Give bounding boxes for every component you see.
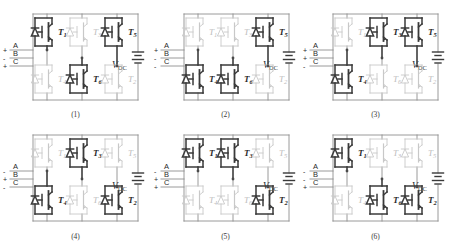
- circuit-panel-3: VDC+A+B-CT1T3T5T4T6T2(3): [300, 0, 451, 121]
- circuit-caption: (3): [300, 110, 451, 119]
- device-subscript: 1: [214, 31, 217, 38]
- device-subscript: 3: [397, 152, 402, 159]
- igbt-symbol: [366, 65, 387, 93]
- diode-triangle: [401, 28, 408, 36]
- igbt-symbol: [366, 139, 387, 167]
- diode-triangle: [101, 196, 108, 204]
- ac-node-junction: [232, 57, 235, 60]
- ac-node-junction: [46, 49, 49, 52]
- igbt-symbol: [66, 186, 87, 214]
- device-subscript: 1: [63, 152, 66, 159]
- device-label-T3: T3: [93, 148, 103, 159]
- igbt-symbol: [101, 18, 122, 46]
- diode-triangle: [182, 75, 189, 83]
- device-subscript: 5: [433, 152, 437, 159]
- phase-terminal-C: C: [313, 178, 319, 187]
- device-label-T1: T1: [209, 27, 217, 38]
- phase-polarity-C: -: [3, 184, 6, 191]
- ac-node-junction: [232, 178, 235, 181]
- device-label-T3: T3: [393, 148, 402, 159]
- diode-triangle: [366, 75, 373, 83]
- device-subscript: 5: [133, 152, 137, 159]
- igbt-symbol: [31, 186, 52, 214]
- phase-polarity-C: +: [303, 184, 307, 191]
- diode-triangle: [217, 75, 224, 83]
- phase-polarity-B: -: [303, 176, 306, 183]
- device-label-T2: T2: [279, 195, 289, 206]
- igbt-symbol: [182, 65, 203, 93]
- igbt-symbol: [182, 186, 203, 214]
- ac-node-junction: [116, 186, 119, 189]
- ac-node-junction: [81, 178, 84, 181]
- diode-triangle: [331, 75, 338, 83]
- phase-terminal-C: C: [13, 178, 19, 187]
- device-label-T5: T5: [128, 148, 137, 159]
- igbt-symbol: [366, 18, 387, 46]
- device-label-T4: T4: [358, 74, 368, 85]
- device-subscript: 1: [64, 31, 67, 38]
- diode-triangle: [331, 28, 338, 36]
- igbt-symbol: [217, 65, 238, 93]
- circuit-panel-1: VDC+A-B+CT1T3T5T4T6T2(1): [0, 0, 151, 121]
- ac-node-junction: [197, 49, 200, 52]
- phase-polarity-C: +: [154, 184, 158, 191]
- igbt-symbol: [331, 139, 352, 167]
- igbt-symbol: [31, 139, 52, 167]
- device-label-T2: T2: [128, 74, 137, 85]
- circuit-schematic: VDC+A+B-CT1T3T5T4T6T2: [300, 0, 451, 121]
- diode-triangle: [401, 149, 408, 157]
- igbt-symbol: [182, 139, 203, 167]
- circuit-panel-5: VDC-A+B+CT1T3T5T4T6T2(5): [151, 121, 300, 243]
- device-subscript: 5: [434, 31, 438, 38]
- dc-source-label: VDC: [112, 60, 127, 71]
- phase-polarity-A: -: [154, 168, 157, 175]
- circuit-schematic: VDC-A+B-CT1T3T5T4T6T2: [0, 121, 151, 242]
- igbt-symbol: [182, 18, 203, 46]
- diode-triangle: [217, 196, 224, 204]
- ac-node-junction: [416, 65, 419, 68]
- device-subscript: 2: [433, 199, 438, 206]
- phase-terminal-C: C: [164, 178, 170, 187]
- device-label-T2: T2: [428, 74, 437, 85]
- diode-triangle: [366, 196, 373, 204]
- ac-node-junction: [267, 65, 270, 68]
- ac-node-junction: [381, 57, 384, 60]
- device-subscript: 2: [284, 78, 288, 85]
- igbt-symbol: [66, 18, 87, 46]
- diode-triangle: [66, 28, 73, 36]
- device-label-T3: T3: [244, 148, 254, 159]
- diode-triangle: [217, 149, 224, 157]
- diode-triangle: [252, 149, 259, 157]
- igbt-symbol: [401, 139, 422, 167]
- device-label-T5: T5: [279, 148, 288, 159]
- phase-polarity-A: +: [3, 47, 7, 54]
- diode-triangle: [366, 28, 373, 36]
- phase-polarity-B: +: [3, 176, 7, 183]
- device-label-T2: T2: [128, 195, 138, 206]
- device-label-T4: T4: [58, 195, 68, 206]
- device-label-T5: T5: [428, 148, 437, 159]
- device-subscript: 5: [134, 31, 138, 38]
- phase-polarity-B: +: [303, 55, 307, 62]
- phase-polarity-A: -: [3, 168, 6, 175]
- diode-triangle: [217, 28, 224, 36]
- igbt-symbol: [252, 139, 273, 167]
- igbt-symbol: [252, 18, 273, 46]
- ac-node-junction: [81, 57, 84, 60]
- device-subscript: 1: [363, 31, 366, 38]
- diode-triangle: [331, 149, 338, 157]
- device-subscript: 6: [398, 78, 402, 85]
- phase-polarity-C: -: [154, 63, 157, 70]
- phase-polarity-B: -: [154, 55, 157, 62]
- ac-node-junction: [346, 49, 349, 52]
- igbt-symbol: [366, 186, 387, 214]
- device-label-T6: T6: [244, 74, 254, 85]
- igbt-symbol: [31, 65, 52, 93]
- device-subscript: 2: [433, 78, 437, 85]
- device-label-T1: T1: [358, 27, 366, 38]
- igbt-symbol: [331, 18, 352, 46]
- diode-triangle: [101, 149, 108, 157]
- diode-triangle: [182, 28, 189, 36]
- device-subscript: 4: [214, 199, 218, 206]
- phase-terminal-C: C: [13, 57, 19, 66]
